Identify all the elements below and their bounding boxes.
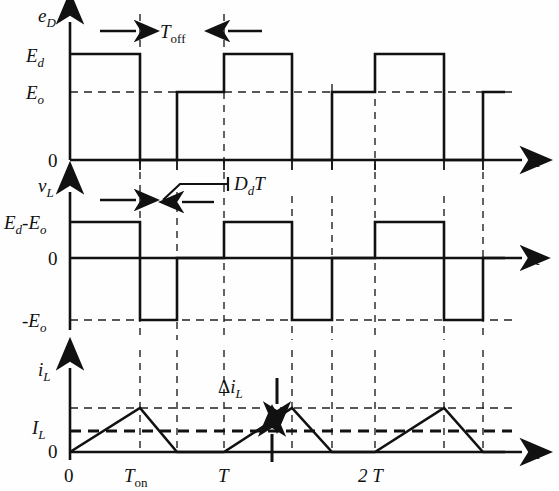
tick-label-vl-zero: 0: [48, 248, 58, 269]
time-axis-label-vl: t: [535, 248, 541, 269]
time-axis-label-il: t: [535, 442, 541, 463]
x-ticks-ed: [140, 160, 483, 170]
tick-label-vl-EdEo: Ed-Eo: [3, 212, 47, 237]
axis-label-il: iL: [38, 359, 51, 384]
time-axis-label-ed: t: [535, 150, 541, 171]
waveform-ed: [70, 54, 505, 160]
ddt-label: DdT: [233, 173, 266, 198]
tick-label-ed-Ed: Ed: [25, 45, 45, 70]
plot-ed: eD Ed Eo 0 Toff t: [25, 5, 541, 171]
tick-label-ed-Eo: Eo: [25, 82, 45, 107]
plot-il: iL IL 0 ΔiL 0 Ton T 2 T t: [31, 350, 541, 490]
gridlines-il: [140, 350, 483, 452]
gridlines-vl: [140, 172, 483, 340]
waveform-figure: eD Ed Eo 0 Toff t: [0, 0, 559, 491]
x-tick-label-T: T: [218, 465, 230, 486]
tick-label-vl-minusEo: -Eo: [22, 310, 47, 335]
tick-label-il-IL: IL: [31, 417, 46, 442]
x-tick-label-0: 0: [64, 465, 74, 486]
waveform-vl: [70, 222, 505, 320]
axis-label-ed: eD: [38, 5, 56, 30]
toff-label: Toff: [160, 21, 186, 46]
figure-canvas: eD Ed Eo 0 Toff t: [0, 0, 559, 491]
delta-il-label: ΔiL: [218, 376, 243, 401]
x-tick-label-ton: Ton: [124, 465, 148, 490]
ddt-leader-line: [163, 184, 228, 200]
x-tick-label-2T: 2 T: [358, 465, 384, 486]
tick-label-il-zero: 0: [48, 441, 58, 462]
tick-label-ed-zero: 0: [48, 150, 58, 171]
plot-vl: vL Ed-Eo 0 -Eo DdT t: [3, 172, 541, 340]
axis-label-vl: vL: [38, 175, 54, 200]
